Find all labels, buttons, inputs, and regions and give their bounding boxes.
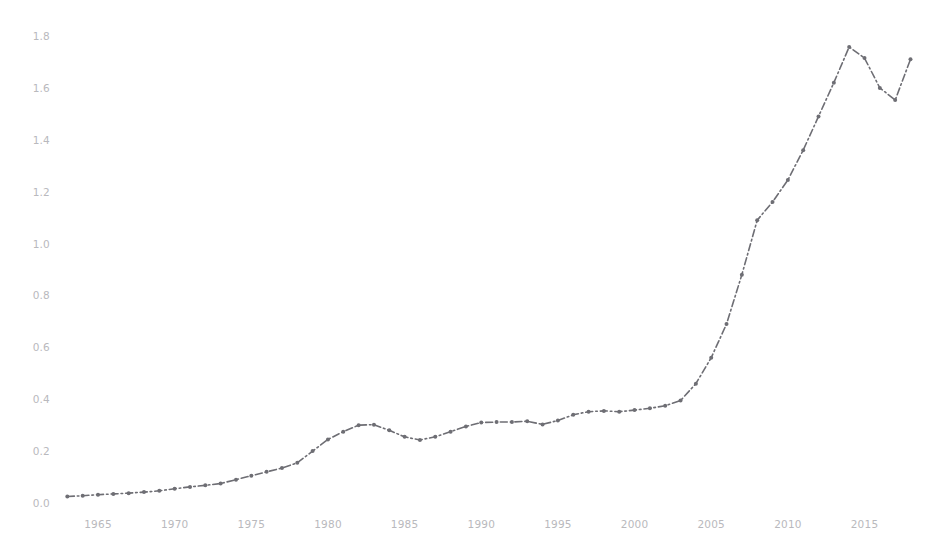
x-tick-label: 1970 xyxy=(161,519,189,530)
data-point xyxy=(173,487,177,491)
data-point xyxy=(786,178,790,182)
data-point xyxy=(847,45,851,49)
data-point xyxy=(832,81,836,85)
data-point xyxy=(203,483,207,487)
data-point xyxy=(341,430,345,434)
data-point xyxy=(188,485,192,489)
y-tick-label: 1.2 xyxy=(14,186,50,197)
data-point xyxy=(249,474,253,478)
y-tick-label: 0.0 xyxy=(14,498,50,509)
data-point xyxy=(280,466,284,470)
data-point xyxy=(127,491,131,495)
data-point xyxy=(725,322,729,326)
x-tick-label: 1980 xyxy=(314,519,342,530)
data-point xyxy=(633,408,637,412)
data-point xyxy=(418,438,422,442)
data-point xyxy=(771,200,775,204)
y-tick-label: 1.0 xyxy=(14,238,50,249)
data-point xyxy=(65,495,69,499)
data-point xyxy=(449,430,453,434)
x-tick-label: 2000 xyxy=(621,519,649,530)
data-point xyxy=(403,435,407,439)
data-point xyxy=(157,489,161,493)
x-tick-label: 1990 xyxy=(468,519,496,530)
line-chart: 0.00.20.40.60.81.01.21.41.61.8 196519701… xyxy=(0,0,952,558)
x-tick-label: 2005 xyxy=(697,519,725,530)
x-tick-label: 1995 xyxy=(544,519,572,530)
y-tick-label: 1.4 xyxy=(14,135,50,146)
x-tick-label: 2010 xyxy=(774,519,802,530)
y-tick-label: 0.6 xyxy=(14,342,50,353)
data-point xyxy=(265,470,269,474)
y-tick-label: 0.4 xyxy=(14,394,50,405)
data-point xyxy=(617,410,621,414)
data-point xyxy=(801,148,805,152)
data-point xyxy=(510,420,514,424)
data-point xyxy=(495,420,499,424)
data-point xyxy=(908,57,912,61)
data-point xyxy=(295,461,299,465)
data-point xyxy=(755,218,759,222)
data-point xyxy=(219,482,223,486)
data-point xyxy=(602,409,606,413)
data-point xyxy=(663,404,667,408)
data-point xyxy=(357,423,361,427)
data-point xyxy=(878,86,882,90)
y-tick-label: 0.8 xyxy=(14,290,50,301)
data-point xyxy=(234,478,238,482)
data-point xyxy=(817,114,821,118)
data-point xyxy=(372,423,376,427)
data-point xyxy=(541,422,545,426)
data-point xyxy=(679,399,683,403)
data-point xyxy=(311,449,315,453)
chart-plot-area xyxy=(0,0,952,558)
y-tick-label: 0.2 xyxy=(14,446,50,457)
data-point xyxy=(571,413,575,417)
data-point xyxy=(81,494,85,498)
data-point xyxy=(740,273,744,277)
x-tick-label: 1975 xyxy=(238,519,266,530)
data-point xyxy=(96,493,100,497)
data-point xyxy=(464,424,468,428)
data-point xyxy=(556,419,560,423)
data-point xyxy=(111,492,115,496)
data-series-line xyxy=(67,47,910,497)
data-point xyxy=(709,356,713,360)
data-point xyxy=(648,406,652,410)
data-point xyxy=(694,382,698,386)
data-point xyxy=(326,437,330,441)
y-tick-label: 1.6 xyxy=(14,83,50,94)
x-tick-label: 1965 xyxy=(84,519,112,530)
data-point xyxy=(142,490,146,494)
data-point xyxy=(387,428,391,432)
y-tick-label: 1.8 xyxy=(14,31,50,42)
data-point xyxy=(525,419,529,423)
data-point xyxy=(433,435,437,439)
data-point xyxy=(863,56,867,60)
x-tick-label: 1985 xyxy=(391,519,419,530)
data-point xyxy=(587,410,591,414)
data-point xyxy=(893,98,897,102)
x-tick-label: 2015 xyxy=(851,519,879,530)
data-point-markers xyxy=(65,45,912,499)
data-point xyxy=(479,421,483,425)
